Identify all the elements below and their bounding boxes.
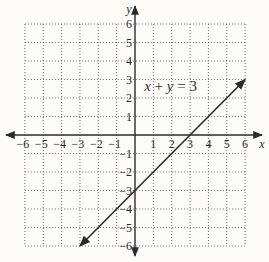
x-tick-label: 1 [150, 137, 156, 151]
y-tick-label: 3 [126, 73, 132, 87]
x-tick-label: 4 [205, 137, 211, 151]
x-axis-label: x [258, 137, 265, 151]
x-tick-label: −4 [53, 137, 66, 151]
y-tick-label: −2 [119, 165, 132, 179]
annotations: x + y = 3 [143, 78, 197, 94]
y-tick-label: −6 [119, 239, 132, 253]
y-tick-label: −1 [119, 147, 132, 161]
x-tick-label: 5 [224, 137, 230, 151]
x-tick-label: 3 [187, 137, 193, 151]
y-tick-label: 2 [126, 91, 132, 105]
y-axis-label: y [125, 2, 132, 16]
x-tick-label: −6 [17, 137, 30, 151]
x-tick-label: −5 [35, 137, 48, 151]
x-tick-label: −3 [72, 137, 85, 151]
y-tick-label: 4 [126, 54, 132, 68]
x-tick-label: 6 [242, 137, 248, 151]
data-series [80, 80, 245, 247]
y-tick-label: 5 [126, 36, 132, 50]
y-tick-label: −5 [119, 221, 132, 235]
x-tick-label: −2 [90, 137, 103, 151]
equation-label: x + y = 3 [143, 78, 197, 94]
coordinate-plane: xy −6−5−4−3−2−1123456−6−5−4−3−2−1123456 … [0, 0, 269, 262]
y-tick-label: 6 [126, 17, 132, 31]
series-line [80, 80, 245, 247]
y-tick-label: 1 [126, 110, 132, 124]
x-tick-label: 2 [169, 137, 175, 151]
